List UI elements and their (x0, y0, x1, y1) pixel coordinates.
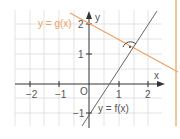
right-angle-dot (129, 46, 131, 48)
x-tick-label: −1 (55, 89, 67, 100)
y-axis-label: y (95, 12, 100, 23)
axes (15, 16, 160, 128)
x-tick-label: −2 (26, 89, 38, 100)
line-g (70, 13, 178, 72)
y-tick-label: 1 (78, 49, 84, 60)
origin-label: O (80, 86, 88, 97)
x-tick-label: 1 (116, 89, 122, 100)
x-axis-arrow-icon (157, 81, 165, 87)
coordinate-plot: −2 −1 1 2 2 1 −1 O y x y = g(x) y = f(x) (0, 0, 180, 139)
line-g-label: y = g(x) (38, 18, 72, 29)
x-tick-label: 2 (145, 89, 151, 100)
y-axis-arrow-icon (86, 11, 92, 19)
x-axis-label: x (154, 70, 159, 81)
line-f-label: y = f(x) (98, 103, 129, 114)
y-tick-label: −1 (73, 108, 85, 119)
